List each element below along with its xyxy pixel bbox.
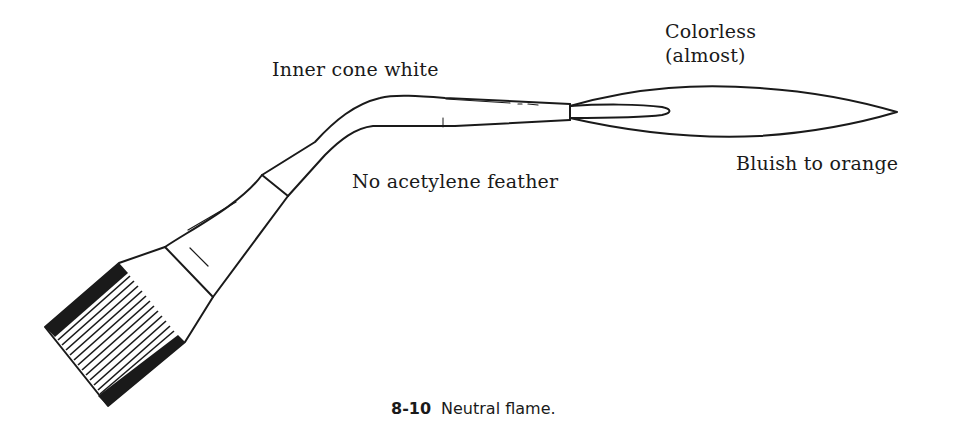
label-outer-color: Bluish to orange [736,152,898,174]
figure: Inner cone white Colorless (almost) No a… [0,0,955,441]
label-no-feather: No acetylene feather [352,170,558,192]
caption-text: Neutral flame. [441,399,556,418]
label-almost: (almost) [665,44,746,66]
torch-tube [262,96,570,175]
label-inner-cone: Inner cone white [272,58,439,80]
knurled-grip [45,263,185,406]
outer-flame-envelope [570,86,897,137]
inner-cone [570,105,670,118]
torch-collar [165,175,288,297]
caption-number: 8-10 [391,399,431,418]
figure-caption: 8-10Neutral flame. [391,399,556,418]
torch-flame-drawing [0,0,955,441]
label-colorless: Colorless [665,20,756,42]
